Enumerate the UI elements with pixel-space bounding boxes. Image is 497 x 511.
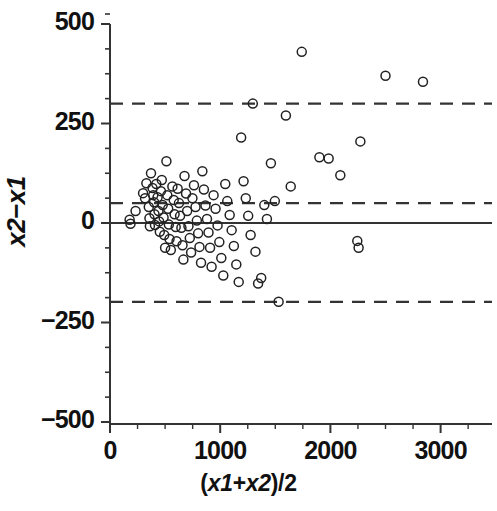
data-point — [162, 157, 171, 166]
data-point — [194, 229, 203, 238]
data-point — [199, 185, 208, 194]
data-point — [189, 181, 198, 190]
data-point — [260, 201, 269, 210]
data-point — [315, 153, 324, 162]
bland-altman-figure: x2−x1 (x1+x2)/2 −500−2500250500 01000200… — [0, 0, 497, 511]
data-point — [418, 77, 427, 86]
data-point — [381, 71, 390, 80]
data-point — [324, 154, 333, 163]
data-point — [198, 167, 207, 176]
data-point — [251, 247, 260, 256]
data-point — [182, 189, 191, 198]
data-point — [185, 234, 194, 243]
data-point — [234, 277, 243, 286]
data-point — [246, 230, 255, 239]
data-point — [204, 228, 213, 237]
data-point — [207, 262, 216, 271]
data-point — [266, 159, 275, 168]
data-point — [146, 169, 155, 178]
data-point — [225, 211, 234, 220]
data-point — [206, 243, 215, 252]
data-point — [173, 184, 182, 193]
data-point — [237, 133, 246, 142]
data-point — [187, 248, 196, 257]
data-point — [197, 258, 206, 267]
data-point — [286, 182, 295, 191]
data-point — [217, 254, 226, 263]
data-point — [142, 179, 151, 188]
data-point — [188, 194, 197, 203]
data-point — [191, 203, 200, 212]
data-point — [161, 243, 170, 252]
data-point — [229, 242, 238, 251]
data-point — [166, 246, 175, 255]
data-point — [241, 194, 250, 203]
data-points-group — [125, 47, 427, 306]
data-point — [180, 172, 189, 181]
data-point — [232, 260, 241, 269]
data-point — [223, 197, 232, 206]
data-point — [244, 211, 253, 220]
data-point — [239, 177, 248, 186]
data-point — [168, 182, 177, 191]
data-point — [209, 191, 218, 200]
data-point — [336, 171, 345, 180]
data-point — [195, 242, 204, 251]
data-point — [179, 255, 188, 264]
data-point — [281, 111, 290, 120]
data-point — [356, 137, 365, 146]
data-point — [297, 47, 306, 56]
data-point — [211, 204, 220, 213]
data-point — [131, 207, 140, 216]
data-point — [227, 226, 236, 235]
data-point — [221, 180, 230, 189]
data-point — [219, 271, 228, 280]
data-point — [270, 197, 279, 206]
plot-canvas — [0, 0, 497, 511]
data-point — [215, 238, 224, 247]
data-point — [139, 189, 148, 198]
data-point — [170, 210, 179, 219]
data-point — [183, 207, 192, 216]
